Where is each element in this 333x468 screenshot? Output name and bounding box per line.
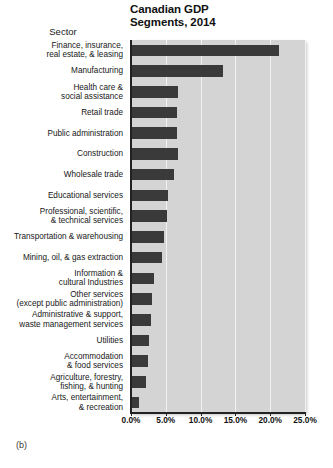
category-label-line: fishing, & hunting [0, 382, 123, 391]
bar [131, 293, 152, 305]
x-tick-mark [131, 413, 132, 416]
category-label: Mining, oil, & gas extraction [0, 253, 123, 262]
category-label-line: Professional, scientific, [0, 207, 123, 216]
category-label: Other services(except public administrat… [0, 290, 123, 309]
bar [131, 45, 279, 57]
category-label-line: Other services [0, 290, 123, 299]
category-label-line: Retail trade [0, 108, 123, 117]
category-label: Accommodation& food services [0, 352, 123, 371]
category-label-line: Accommodation [0, 352, 123, 361]
bar [131, 86, 178, 98]
bar [131, 314, 151, 326]
x-tick-mark [235, 413, 236, 416]
x-tick-mark [305, 413, 306, 416]
category-label-line: Utilities [0, 336, 123, 345]
category-label: Transportation & warehousing [0, 232, 123, 241]
category-label-line: real estate, & leasing [0, 50, 123, 59]
category-axis-labels: Finance, insurance,real estate, & leasin… [0, 40, 127, 413]
category-label: Arts, entertainment,& recreation [0, 393, 123, 412]
gridline [305, 40, 306, 413]
x-tick-label: 25.0% [285, 415, 325, 425]
chart-title: Canadian GDP Segments, 2014 [130, 3, 330, 29]
bars-layer [131, 40, 305, 413]
category-label: Wholesale trade [0, 170, 123, 179]
x-tick-mark [166, 413, 167, 416]
chart-figure: Canadian GDP Segments, 2014 Sector Finan… [0, 0, 333, 468]
x-axis-tick-labels: 0.0%5.0%10.0%15.0%20.0%25.0% [0, 415, 333, 431]
bar [131, 148, 178, 160]
category-label-line: & food services [0, 361, 123, 370]
category-label-line: Construction [0, 149, 123, 158]
category-label-line: Manufacturing [0, 66, 123, 75]
category-label: Finance, insurance,real estate, & leasin… [0, 41, 123, 60]
category-label-line: & technical services [0, 216, 123, 225]
category-label: Agriculture, forestry,fishing, & hunting [0, 373, 123, 392]
category-label: Utilities [0, 336, 123, 345]
category-label-line: Educational services [0, 191, 123, 200]
category-label: Public administration [0, 129, 123, 138]
bar [131, 190, 168, 202]
bar [131, 355, 148, 367]
bar [131, 107, 177, 119]
category-label-line: Information & [0, 269, 123, 278]
bar [131, 335, 149, 347]
chart-title-line-2: Segments, 2014 [130, 16, 330, 29]
category-label-line: (except public administration) [0, 299, 123, 308]
category-label-line: waste management services [0, 320, 123, 329]
category-label-line: Arts, entertainment, [0, 393, 123, 402]
category-label-line: Administrative & support, [0, 310, 123, 319]
category-label: Construction [0, 149, 123, 158]
category-label-line: Mining, oil, & gas extraction [0, 253, 123, 262]
category-label: Information &cultural Industries [0, 269, 123, 288]
category-label: Educational services [0, 191, 123, 200]
x-tick-mark [201, 413, 202, 416]
category-label-line: Finance, insurance, [0, 41, 123, 50]
bar [131, 397, 139, 409]
bar [131, 273, 154, 285]
category-label: Manufacturing [0, 66, 123, 75]
category-label-line: Wholesale trade [0, 170, 123, 179]
bar [131, 127, 177, 139]
category-label-line: cultural Industries [0, 278, 123, 287]
category-label-line: Public administration [0, 129, 123, 138]
category-label: Health care &social assistance [0, 83, 123, 102]
bar [131, 169, 174, 181]
category-label-line: Transportation & warehousing [0, 232, 123, 241]
chart-title-line-1: Canadian GDP [130, 3, 330, 16]
bar [131, 231, 164, 243]
y-axis-spine [130, 40, 132, 413]
y-axis-title: Sector [0, 26, 126, 37]
x-tick-mark [270, 413, 271, 416]
category-label: Retail trade [0, 108, 123, 117]
category-label-line: Health care & [0, 83, 123, 92]
bar [131, 252, 162, 264]
category-label-line: social assistance [0, 92, 123, 101]
figure-caption: (b) [16, 440, 27, 450]
x-axis-spine [130, 412, 306, 414]
bar [131, 65, 223, 77]
category-label-line: & recreation [0, 403, 123, 412]
plot-area [131, 40, 305, 413]
category-label: Professional, scientific,& technical ser… [0, 207, 123, 226]
bar [131, 210, 167, 222]
bar [131, 376, 146, 388]
category-label-line: Agriculture, forestry, [0, 373, 123, 382]
category-label: Administrative & support,waste managemen… [0, 310, 123, 329]
